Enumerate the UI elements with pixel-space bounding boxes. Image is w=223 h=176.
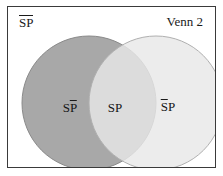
region-label-left: SP [63,100,77,114]
region-left-s: S [63,100,70,115]
region-right-s: S [161,99,168,114]
region-right-s-overline: S [161,99,168,113]
diagram-frame: SP Venn 2 SP SP SP [7,6,216,168]
venn-stage: SP SP SP [8,7,215,167]
region-label-right: SP [161,99,175,113]
region-center-p: P [115,100,122,115]
region-left-p: P [70,100,77,115]
venn-circles-svg [8,7,215,167]
region-label-intersection: SP [108,101,122,114]
region-left-p-overline: P [70,100,77,114]
region-right-p: P [168,99,175,114]
venn-diagram-screenshot: SP Venn 2 SP SP SP [0,0,223,176]
